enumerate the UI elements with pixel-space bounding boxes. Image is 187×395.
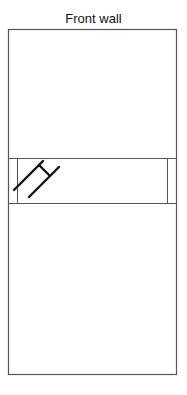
court-diagram (0, 0, 187, 395)
marker-icon (14, 161, 59, 197)
court-outline (9, 30, 177, 375)
